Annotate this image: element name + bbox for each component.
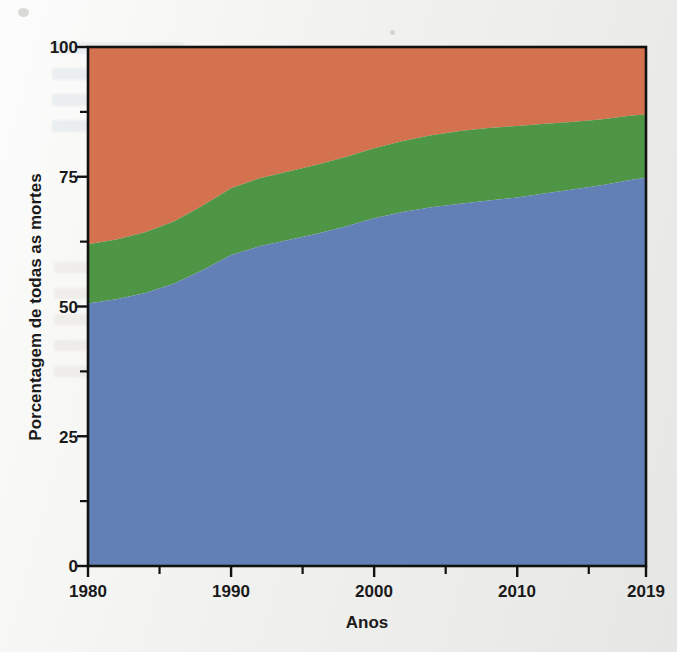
chart-svg: 100 75 50 25 0 1980 1990 2000 2010 2019 … xyxy=(0,0,677,652)
x-ticklabel: 2019 xyxy=(627,582,665,601)
y-ticklabel: 100 xyxy=(50,38,78,57)
x-axis-tick-labels: 1980 1990 2000 2010 2019 xyxy=(69,582,665,601)
plot-areas xyxy=(88,47,646,566)
y-axis-ticks xyxy=(77,47,88,566)
x-ticklabel: 2010 xyxy=(498,582,536,601)
x-axis-ticks xyxy=(88,566,646,577)
area-chart-figure: 100 75 50 25 0 1980 1990 2000 2010 2019 … xyxy=(0,0,677,652)
y-ticklabel: 25 xyxy=(59,428,78,447)
y-axis-tick-labels: 100 75 50 25 0 xyxy=(50,38,78,576)
x-ticklabel: 1980 xyxy=(69,582,107,601)
x-axis-title: Anos xyxy=(346,613,389,632)
x-ticklabel: 1990 xyxy=(212,582,250,601)
y-ticklabel: 50 xyxy=(59,298,78,317)
x-ticklabel: 2000 xyxy=(355,582,393,601)
y-ticklabel: 0 xyxy=(69,557,78,576)
y-axis-title: Porcentagem de todas as mortes xyxy=(26,173,45,440)
y-ticklabel: 75 xyxy=(59,168,78,187)
